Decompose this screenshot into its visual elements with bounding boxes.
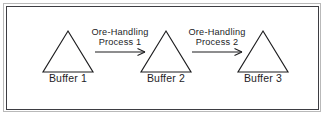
edge-label-process-2-line-1: Ore-Handling xyxy=(181,27,253,37)
edge-label-process-1: Ore-Handling Process 1 xyxy=(84,27,156,47)
node-label-buffer-1: Buffer 1 xyxy=(30,73,106,84)
node-label-buffer-3: Buffer 3 xyxy=(225,73,301,84)
edge-label-process-2: Ore-Handling Process 2 xyxy=(181,27,253,47)
figure-container: Ore-Handling Process 1 Ore-Handling Proc… xyxy=(0,0,327,117)
edge-label-process-1-line-2: Process 1 xyxy=(84,37,156,47)
edge-label-process-1-line-1: Ore-Handling xyxy=(84,27,156,37)
arrow-process-2 xyxy=(192,49,242,56)
edge-label-process-2-line-2: Process 2 xyxy=(181,37,253,47)
node-label-buffer-2: Buffer 2 xyxy=(128,73,204,84)
diagram-canvas xyxy=(0,0,327,117)
arrow-process-1 xyxy=(95,49,145,56)
